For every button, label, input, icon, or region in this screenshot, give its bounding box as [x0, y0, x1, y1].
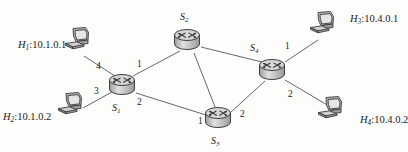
router-s4-label: S4: [250, 43, 259, 55]
router-s2-label: S2: [180, 12, 189, 24]
router-s4-icon[interactable]: [257, 57, 287, 83]
port-label-s3-2: 2: [240, 110, 245, 120]
host-h1-label: H1:10.1.0.1: [18, 40, 66, 51]
port-label-s1-1: 1: [137, 60, 142, 70]
host-h3-icon[interactable]: [307, 10, 337, 35]
port-label-s4-2: 2: [288, 90, 293, 100]
router-s2-icon[interactable]: [172, 27, 202, 53]
port-label-s1-4: 4: [96, 62, 101, 72]
router-s3-label: S3: [211, 136, 220, 148]
router-s1-icon[interactable]: [107, 72, 137, 98]
router-s3-icon[interactable]: [203, 105, 233, 131]
port-label-s1-2: 2: [137, 98, 142, 108]
host-h1-icon[interactable]: [62, 26, 92, 51]
link-S2-S3: [194, 53, 215, 107]
port-label-s3-1: 1: [198, 117, 203, 127]
host-h3-label: H3:10.4.0.1: [350, 14, 398, 25]
port-label-s1-3: 3: [94, 87, 99, 97]
link-S3-S4: [231, 81, 265, 112]
router-s1-label: S1: [112, 103, 121, 115]
port-label-s4-1: 1: [285, 42, 290, 52]
host-h2-label: H2:10.1.0.2: [3, 112, 51, 123]
host-h4-label: H4:10.4.0.2: [360, 115, 408, 126]
host-h4-icon[interactable]: [315, 95, 345, 120]
host-h2-icon[interactable]: [55, 91, 85, 116]
link-S1-S3: [136, 93, 206, 115]
